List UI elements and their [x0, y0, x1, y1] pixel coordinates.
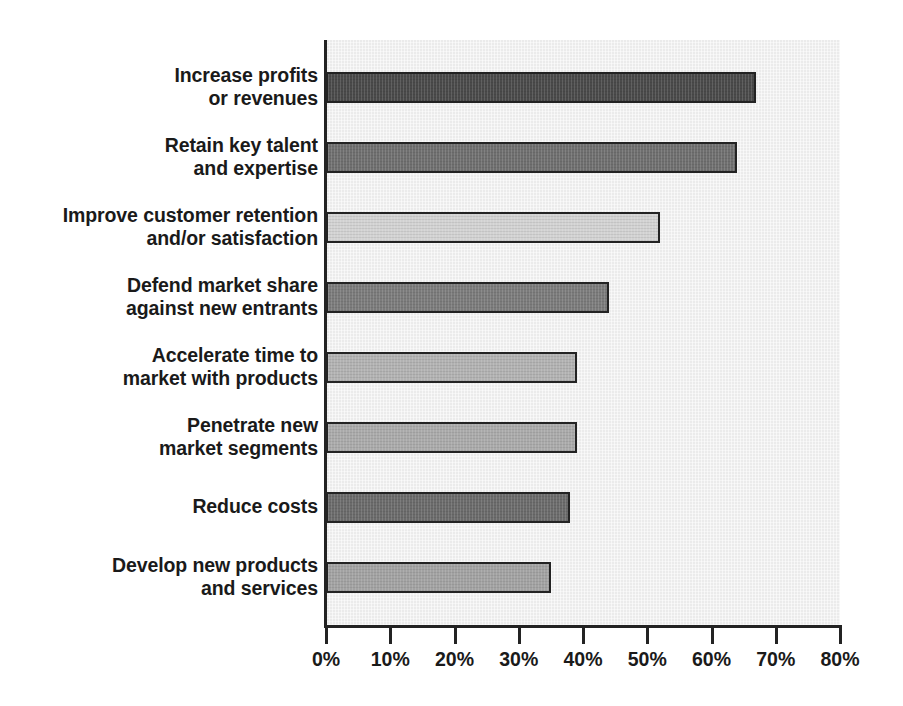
x-axis-tick-label: 20%	[420, 648, 490, 671]
x-axis-tick	[389, 628, 392, 644]
bar-texture	[328, 424, 575, 451]
bar	[326, 282, 609, 313]
category-label-line: Improve customer retention	[0, 204, 318, 227]
x-axis-tick	[775, 628, 778, 644]
x-axis-tick-label: 80%	[805, 648, 875, 671]
category-label: Retain key talentand expertise	[0, 134, 318, 180]
bar-texture	[328, 284, 607, 311]
category-label-line: Develop new products	[0, 554, 318, 577]
bar-chart: Increase profitsor revenuesRetain key ta…	[0, 0, 903, 706]
x-axis-tick	[325, 628, 328, 644]
bar	[326, 212, 660, 243]
bar	[326, 562, 551, 593]
bar-texture	[328, 74, 754, 101]
category-axis-labels: Increase profitsor revenuesRetain key ta…	[0, 40, 318, 625]
category-label-line: or revenues	[0, 87, 318, 110]
x-axis-tick	[454, 628, 457, 644]
x-axis-tick	[839, 628, 842, 644]
bar-texture	[328, 354, 575, 381]
bar	[326, 422, 577, 453]
x-axis-tick	[711, 628, 714, 644]
bar-texture	[328, 214, 658, 241]
x-axis-tick-label: 50%	[612, 648, 682, 671]
category-label-line: and expertise	[0, 157, 318, 180]
category-label-line: Reduce costs	[0, 495, 318, 518]
category-label: Reduce costs	[0, 495, 318, 518]
x-axis-tick-label: 30%	[484, 648, 554, 671]
category-label-line: Increase profits	[0, 64, 318, 87]
category-label: Improve customer retentionand/or satisfa…	[0, 204, 318, 250]
category-label-line: against new entrants	[0, 297, 318, 320]
category-label: Increase profitsor revenues	[0, 64, 318, 110]
category-label: Accelerate time tomarket with products	[0, 344, 318, 390]
plot-area	[326, 40, 840, 625]
category-label-line: Defend market share	[0, 274, 318, 297]
category-label: Penetrate newmarket segments	[0, 414, 318, 460]
plot-background-texture	[326, 40, 840, 625]
category-label-line: and/or satisfaction	[0, 227, 318, 250]
bar-texture	[328, 494, 568, 521]
x-axis-tick-label: 10%	[355, 648, 425, 671]
category-label-line: Penetrate new	[0, 414, 318, 437]
category-label-line: market segments	[0, 437, 318, 460]
category-label-line: market with products	[0, 367, 318, 390]
bar-texture	[328, 144, 735, 171]
x-axis-tick-label: 70%	[741, 648, 811, 671]
x-axis-tick-label: 0%	[291, 648, 361, 671]
x-axis-tick-label: 40%	[548, 648, 618, 671]
bar-texture	[328, 564, 549, 591]
x-axis-tick	[518, 628, 521, 644]
bar	[326, 142, 737, 173]
x-axis-tick-label: 60%	[677, 648, 747, 671]
bar	[326, 352, 577, 383]
category-label-line: Accelerate time to	[0, 344, 318, 367]
bar	[326, 492, 570, 523]
x-axis-tick	[646, 628, 649, 644]
category-label-line: and services	[0, 577, 318, 600]
bar	[326, 72, 756, 103]
category-label: Develop new productsand services	[0, 554, 318, 600]
x-axis-tick	[582, 628, 585, 644]
value-axis-line	[324, 40, 327, 628]
category-label-line: Retain key talent	[0, 134, 318, 157]
category-label: Defend market shareagainst new entrants	[0, 274, 318, 320]
